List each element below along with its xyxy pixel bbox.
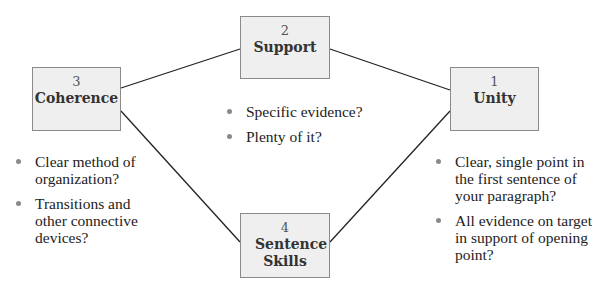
- bullet-dot-icon: [436, 159, 441, 164]
- coherence-bullets: Clear method of organization? Transition…: [12, 153, 147, 254]
- edge-coherence-support: [121, 49, 240, 88]
- bullet-item: All evidence on target in support of ope…: [432, 212, 592, 263]
- node-unity: 1 Unity: [450, 67, 539, 131]
- node-title: Support: [241, 39, 329, 56]
- node-number: 2: [241, 23, 329, 39]
- support-bullets: Specific evidence? Plenty of it?: [223, 103, 403, 153]
- node-sentence-skills: 4 Sentence Skills: [240, 213, 330, 278]
- bullet-dot-icon: [436, 218, 441, 223]
- bullet-dot-icon: [16, 201, 21, 206]
- bullet-dot-icon: [16, 159, 21, 164]
- node-number: 1: [451, 74, 538, 90]
- node-coherence: 3 Coherence: [32, 67, 121, 131]
- bullet-dot-icon: [227, 134, 232, 139]
- bullet-item: Transitions and other connective devices…: [12, 195, 147, 246]
- unity-bullets: Clear, single point in the first sentenc…: [432, 153, 592, 271]
- bullet-item: Specific evidence?: [223, 103, 403, 120]
- edge-support-unity: [330, 49, 450, 90]
- node-title: Sentence Skills: [255, 236, 315, 270]
- bullet-dot-icon: [227, 109, 232, 114]
- bullet-item: Clear, single point in the first sentenc…: [432, 153, 592, 204]
- node-title: Coherence: [33, 90, 120, 107]
- node-support: 2 Support: [240, 16, 330, 79]
- bullet-item: Clear method of organization?: [12, 153, 147, 187]
- node-title: Unity: [451, 90, 538, 107]
- bullet-item: Plenty of it?: [223, 128, 403, 145]
- node-number: 4: [241, 220, 329, 236]
- node-number: 3: [33, 74, 120, 90]
